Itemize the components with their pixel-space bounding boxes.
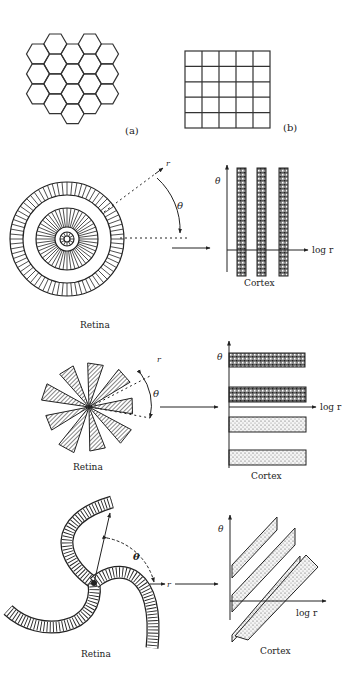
r-label-3: r: [167, 580, 172, 589]
theta-label-2: θ: [153, 388, 159, 399]
cortex-horizontal-stripes: [229, 341, 316, 468]
panel-a-label: (a): [125, 125, 139, 136]
retinotopic-mapping-figure: (a) (b) r θ Retina θ log r Cortex: [0, 0, 359, 675]
cortex-theta-label-3: θ: [218, 524, 224, 534]
cortex-theta-label-2: θ: [217, 352, 223, 362]
theta-label-3: θ: [133, 551, 140, 562]
cortex-label-2: Cortex: [251, 471, 282, 481]
retina-label-2: Retina: [73, 462, 103, 472]
retina-radial-wedges: [42, 363, 133, 453]
retina-label-3: Retina: [81, 649, 111, 659]
cortex-vertical-stripes: [227, 165, 308, 276]
hexagonal-grid: [27, 34, 119, 124]
cortex-diagonal-stripes: [230, 515, 326, 642]
log-r-label-2: log r: [320, 402, 342, 412]
square-grid: [185, 51, 270, 128]
retina-concentric-rings: [10, 182, 124, 296]
log-r-label-1: log r: [312, 245, 334, 255]
theta-label-1: θ: [177, 200, 183, 211]
cortex-label-1: Cortex: [244, 278, 275, 288]
r-label-2: r: [157, 355, 162, 364]
retina-label-1: Retina: [80, 320, 110, 330]
cortex-label-3: Cortex: [260, 646, 291, 656]
cortex-theta-label-1: θ: [215, 176, 221, 186]
panel-b-label: (b): [283, 122, 297, 133]
log-r-label-3: log r: [296, 608, 318, 618]
retina-spirals: [8, 502, 153, 648]
r-label-1: r: [166, 159, 171, 168]
